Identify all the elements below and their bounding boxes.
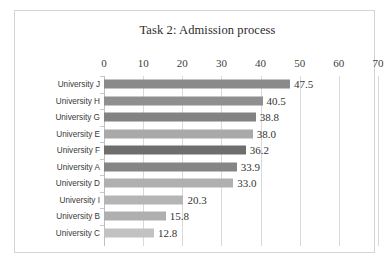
category-label-university-h: University H	[56, 96, 100, 105]
bar-row: University E38.0	[15, 126, 391, 143]
axis-tick	[100, 225, 104, 226]
value-label-university-c: 12.8	[158, 227, 177, 239]
bar-row: University G38.8	[15, 109, 391, 126]
bar-university-b[interactable]	[104, 212, 166, 221]
x-tick-label-50: 50	[294, 57, 305, 69]
axis-tick	[100, 76, 104, 77]
bar-row: University I20.3	[15, 192, 391, 209]
x-tick-label-0: 0	[101, 57, 107, 69]
bar-university-e[interactable]	[104, 129, 253, 138]
value-label-university-j: 47.5	[294, 78, 313, 90]
x-axis-tick-labels: 010203040506070	[104, 57, 378, 73]
x-tick-label-40: 40	[255, 57, 266, 69]
bar-row: University H40.5	[15, 93, 391, 110]
value-label-university-h: 40.5	[267, 95, 286, 107]
bar-row: University A33.9	[15, 159, 391, 176]
category-label-university-c: University C	[56, 228, 100, 237]
value-label-university-b: 15.8	[170, 210, 189, 222]
x-tick-label-70: 70	[373, 57, 384, 69]
category-label-university-i: University I	[60, 195, 101, 204]
bar-university-h[interactable]	[104, 96, 263, 105]
x-tick-label-20: 20	[177, 57, 188, 69]
x-tick-label-30: 30	[216, 57, 227, 69]
value-label-university-a: 33.9	[241, 161, 260, 173]
value-label-university-i: 20.3	[187, 194, 206, 206]
x-tick-label-60: 60	[333, 57, 344, 69]
chart-title: Task 2: Admission process	[15, 23, 374, 38]
value-label-university-e: 38.0	[257, 128, 276, 140]
bar-row: University B15.8	[15, 208, 391, 225]
bar-university-j[interactable]	[104, 80, 290, 89]
bar-university-c[interactable]	[104, 228, 154, 237]
bar-university-d[interactable]	[104, 179, 233, 188]
axis-tick	[100, 126, 104, 127]
category-label-university-d: University D	[56, 179, 100, 188]
value-label-university-d: 33.0	[237, 177, 256, 189]
chart-frame: Task 2: Admission process 01020304050607…	[14, 10, 375, 253]
axis-tick	[100, 93, 104, 94]
category-label-university-e: University E	[56, 129, 100, 138]
value-label-university-g: 38.8	[260, 111, 279, 123]
axis-tick	[100, 175, 104, 176]
bar-rows: University J47.5University H40.5Universi…	[15, 76, 391, 246]
category-label-university-b: University B	[56, 212, 100, 221]
value-label-university-f: 36.2	[250, 144, 269, 156]
bar-row: University J47.5	[15, 76, 391, 93]
axis-tick	[100, 109, 104, 110]
bar-university-i[interactable]	[104, 195, 183, 204]
bar-row: University D33.0	[15, 175, 391, 192]
bar-university-f[interactable]	[104, 146, 246, 155]
bar-row: University C12.8	[15, 225, 391, 242]
axis-tick	[100, 142, 104, 143]
category-label-university-a: University A	[57, 162, 100, 171]
bar-university-g[interactable]	[104, 113, 256, 122]
axis-tick	[100, 159, 104, 160]
bar-university-a[interactable]	[104, 162, 237, 171]
x-tick-label-10: 10	[138, 57, 149, 69]
axis-tick	[100, 208, 104, 209]
category-label-university-f: University F	[57, 146, 100, 155]
category-label-university-g: University G	[55, 113, 100, 122]
axis-tick	[100, 192, 104, 193]
bar-row: University F36.2	[15, 142, 391, 159]
category-label-university-j: University J	[58, 80, 100, 89]
